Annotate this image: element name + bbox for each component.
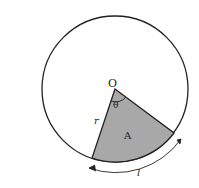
center-label: O — [108, 77, 117, 90]
radius-label: r — [94, 115, 100, 126]
arrowhead-left-icon — [89, 165, 96, 171]
arc-length-label: l — [137, 167, 140, 178]
area-label: A — [123, 130, 132, 141]
diagram-canvas: O θ r A l — [0, 0, 199, 188]
angle-label: θ — [113, 100, 118, 110]
shaded-sector — [92, 89, 174, 162]
sector-diagram: O θ r A l — [0, 0, 199, 188]
